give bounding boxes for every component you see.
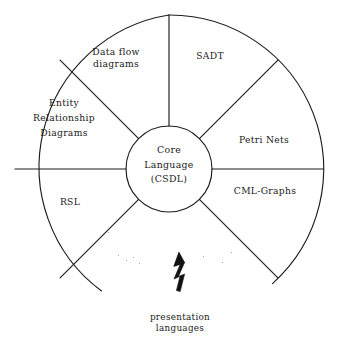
- spoke-upper-right: [199, 60, 278, 139]
- spoke-lower-right: [199, 199, 278, 278]
- caption-label: presentation languages: [138, 312, 222, 335]
- wheel-diagram: Data flow diagrams SADT Entity Relations…: [0, 0, 337, 348]
- scan-speck: [108, 232, 109, 233]
- scan-speck: [203, 256, 204, 257]
- scan-speck: [139, 263, 140, 264]
- scan-speck: [133, 257, 134, 258]
- segment-label-dfd: Data flow diagrams: [78, 46, 154, 70]
- lightning-bolt-arrow-icon: [174, 252, 185, 292]
- segment-label-sadt: SADT: [180, 50, 240, 62]
- segment-label-cml-graphs: CML-Graphs: [222, 185, 308, 197]
- scan-speck: [231, 252, 232, 253]
- segment-label-erd: Entity Relationship Diagrams: [22, 95, 106, 141]
- segment-label-rsl: RSL: [44, 196, 96, 208]
- scan-speck: [222, 262, 223, 263]
- hub-label: Core Language (CSDL): [130, 143, 208, 187]
- spoke-lower-left: [60, 199, 139, 278]
- scan-speck: [118, 255, 119, 256]
- segment-label-petri-nets: Petri Nets: [224, 134, 304, 146]
- scan-speck: [126, 260, 127, 261]
